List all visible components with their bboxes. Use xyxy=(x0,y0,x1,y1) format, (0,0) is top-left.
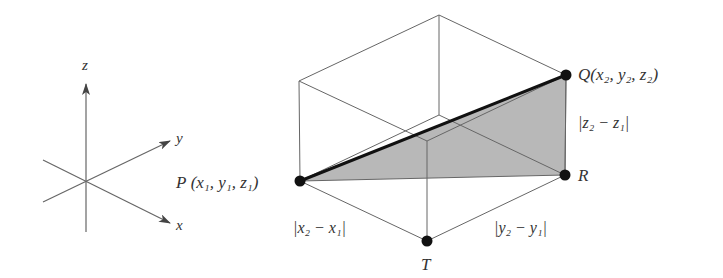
point-r-label: R xyxy=(577,166,589,185)
coordinate-axes xyxy=(43,84,170,232)
point-q xyxy=(561,70,572,81)
y-axis xyxy=(43,141,170,202)
y-axis-label: y xyxy=(174,130,183,146)
point-r xyxy=(560,170,571,181)
point-t-label: T xyxy=(421,255,432,274)
x-axis-label: x xyxy=(175,217,183,233)
x-axis xyxy=(43,160,170,223)
distance-formula-diagram: z y x P (x₁, y₁, z₁) Q(x₂, y₂, z₂) R T |… xyxy=(0,0,723,278)
point-p-label: P (x₁, y₁, z₁) xyxy=(175,173,259,192)
point-p xyxy=(295,176,306,187)
y-distance-label: |y₂ − y₁| xyxy=(494,219,547,237)
point-t xyxy=(422,236,433,247)
z-axis-label: z xyxy=(81,57,88,73)
z-distance-label: |z₂ − z₁| xyxy=(578,114,629,132)
x-distance-label: |x₂ − x₁| xyxy=(293,219,346,237)
point-q-label: Q(x₂, y₂, z₂) xyxy=(578,65,658,84)
